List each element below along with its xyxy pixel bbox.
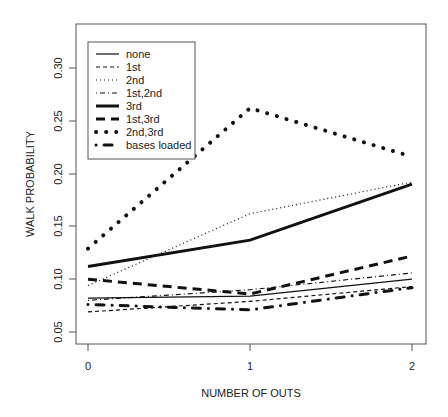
legend-label: 2nd (126, 74, 144, 86)
series-line-3rd (88, 184, 412, 266)
x-tick-label: 1 (247, 360, 253, 372)
legend-label: bases loaded (126, 139, 191, 151)
y-tick-label: 0.25 (52, 110, 64, 131)
x-axis: 0 1 2 NUMBER OF OUTS (85, 344, 415, 399)
y-tick-label: 0.30 (52, 57, 64, 78)
legend-label: none (126, 48, 150, 60)
x-tick-label: 0 (85, 360, 91, 372)
y-tick-label: 0.10 (52, 268, 64, 289)
y-tick-label: 0.20 (52, 163, 64, 184)
series-line-1st-3rd (88, 256, 412, 294)
x-tick-label: 2 (409, 360, 415, 372)
y-axis: 0.05 0.10 0.15 0.20 0.25 0.30 WALK PROBA… (24, 57, 76, 342)
legend-label: 3rd (126, 100, 142, 112)
legend: none1st2nd1st,2nd3rd1st,3rd2nd,3rdbases … (88, 42, 195, 159)
legend-label: 1st,2nd (126, 87, 162, 99)
x-axis-title: NUMBER OF OUTS (201, 387, 301, 399)
y-tick-label: 0.15 (52, 215, 64, 236)
legend-label: 1st,3rd (126, 113, 160, 125)
legend-label: 1st (126, 61, 141, 73)
legend-label: 2nd,3rd (126, 126, 163, 138)
series-line-2nd (88, 182, 412, 285)
y-tick-label: 0.05 (52, 321, 64, 342)
chart: 0.05 0.10 0.15 0.20 0.25 0.30 WALK PROBA… (0, 0, 448, 417)
y-axis-title: WALK PROBABILITY (24, 130, 36, 237)
series-line-1st (88, 287, 412, 312)
